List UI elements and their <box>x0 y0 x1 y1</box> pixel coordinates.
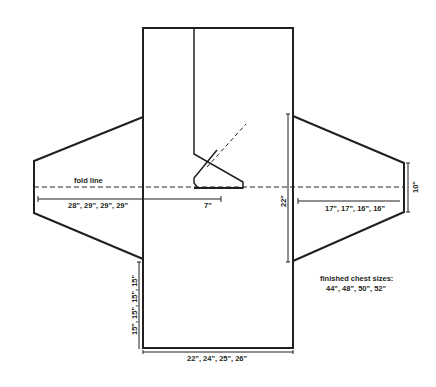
side-length-label: 15", 15", 15", 15" <box>130 274 139 335</box>
left-sleeve <box>34 117 143 259</box>
body-width-label: 22", 24", 25", 26" <box>187 354 248 363</box>
sizes-values: 44", 48", 50", 52" <box>326 284 387 293</box>
cuff-width-label: 10" <box>411 181 420 193</box>
right-sleeve <box>293 116 404 261</box>
armhole-label: 22" <box>279 195 288 207</box>
diagonal-dashed-line <box>207 124 246 167</box>
neck-opening <box>194 28 243 188</box>
sleeve-width-label: 17", 17", 16", 16" <box>325 204 386 213</box>
garment-schematic: fold line 28", 29", 29", 29" 7" 22" 17",… <box>0 0 436 387</box>
neck-offset-label: 7" <box>204 201 212 210</box>
sizes-heading: finished chest sizes: <box>320 274 393 283</box>
fold-line-label: fold line <box>74 176 103 185</box>
sleeve-length-label: 28", 29", 29", 29" <box>68 201 129 210</box>
